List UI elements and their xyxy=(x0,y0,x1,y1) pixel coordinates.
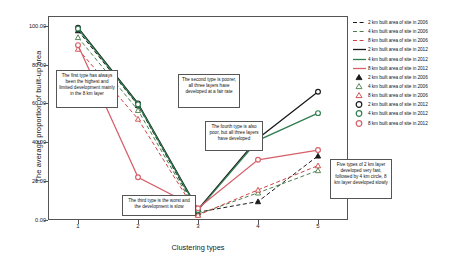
legend-item[interactable]: 4 km built area of site in 2012 xyxy=(352,109,461,118)
y-tick-label: 20.00 xyxy=(0,178,46,184)
anno-type-4: The fourth type is also poor, but all th… xyxy=(205,121,263,151)
y-tick-mark xyxy=(44,103,48,104)
x-tick-mark xyxy=(138,220,139,224)
legend-label: 4 km built area of site in 2006 xyxy=(367,29,428,34)
legend-swatch-dashed-icon xyxy=(352,36,367,45)
y-tick-label: 60.00 xyxy=(0,100,46,106)
legend-swatch-circle-icon xyxy=(352,109,367,118)
y-tick-label: 0.00 xyxy=(0,217,46,223)
x-axis-title: Clustering types xyxy=(48,243,348,252)
legend-label: 8 km built area of site in 2012 xyxy=(367,66,428,71)
legend-swatch-solid-icon xyxy=(352,55,367,64)
legend-swatch-triangle-icon xyxy=(352,82,367,91)
y-tick-mark xyxy=(44,142,48,143)
legend-swatch-triangle-icon xyxy=(352,73,367,82)
plot-area xyxy=(48,16,348,220)
y-tick-mark xyxy=(44,26,48,27)
y-tick-mark xyxy=(44,181,48,182)
x-tick-mark xyxy=(78,220,79,224)
legend-item[interactable]: 2 km built area of site in 2012 xyxy=(352,45,461,54)
legend-label: 8 km built area of site in 2006 xyxy=(367,38,428,43)
x-tick-mark xyxy=(318,220,319,224)
legend-item[interactable]: 8 km built area of site in 2006 xyxy=(352,36,461,45)
chart-container: The average proportion of built-up area … xyxy=(0,0,461,264)
y-tick-label: 80.00 xyxy=(0,62,46,68)
legend-label: 8 km built area of site in 2012 xyxy=(367,121,428,126)
legend-label: 2 km built area of site in 2012 xyxy=(367,47,428,52)
legend-swatch-solid-icon xyxy=(352,64,367,73)
legend-swatch-circle-icon xyxy=(352,100,367,109)
y-tick-label: 100.00 xyxy=(0,23,46,29)
legend-label: 4 km built area of site in 2012 xyxy=(367,57,428,62)
legend-swatch-dashed-icon xyxy=(352,18,367,27)
legend-swatch-triangle-icon xyxy=(352,91,367,100)
anno-type-1: The first type has always been the highe… xyxy=(56,70,118,108)
legend-item[interactable]: 8 km built area of site in 2012 xyxy=(352,119,461,128)
x-tick-mark xyxy=(258,220,259,224)
legend-swatch-circle-icon xyxy=(352,119,367,128)
legend-item[interactable]: 4 km built area of site in 2006 xyxy=(352,27,461,36)
legend-item[interactable]: 2 km built area of site in 2006 xyxy=(352,73,461,82)
legend-item[interactable]: 4 km built area of site in 2006 xyxy=(352,82,461,91)
y-tick-mark xyxy=(44,65,48,66)
legend-label: 4 km built area of site in 2012 xyxy=(367,111,428,116)
legend-label: 2 km built area of site in 2006 xyxy=(367,75,428,80)
anno-type-3: The third type is the worst and the deve… xyxy=(122,195,196,216)
legend-label: 8 km built area of site in 2006 xyxy=(367,93,428,98)
legend-item[interactable]: 8 km built area of site in 2012 xyxy=(352,64,461,73)
legend-item[interactable]: 2 km built area of site in 2012 xyxy=(352,100,461,109)
legend-item[interactable]: 8 km built area of site in 2006 xyxy=(352,91,461,100)
legend-item[interactable]: 2 km built area of site in 2006 xyxy=(352,18,461,27)
y-tick-mark xyxy=(44,220,48,221)
legend: 2 km built area of site in 20064 km buil… xyxy=(352,18,461,128)
legend-swatch-dashed-icon xyxy=(352,27,367,36)
anno-type-5: Five types of 2 km layer developed very … xyxy=(330,159,392,199)
y-tick-label: 40.00 xyxy=(0,139,46,145)
legend-item[interactable]: 4 km built area of site in 2012 xyxy=(352,55,461,64)
legend-swatch-solid-icon xyxy=(352,45,367,54)
legend-label: 2 km built area of site in 2012 xyxy=(367,102,428,107)
x-tick-mark xyxy=(198,220,199,224)
legend-label: 4 km built area of site in 2006 xyxy=(367,84,428,89)
legend-label: 2 km built area of site in 2006 xyxy=(367,20,428,25)
anno-type-2: The second type is poorer, all three lay… xyxy=(178,74,240,108)
